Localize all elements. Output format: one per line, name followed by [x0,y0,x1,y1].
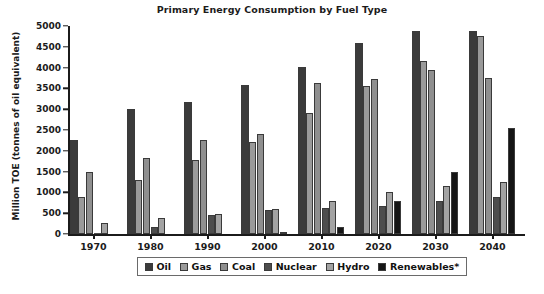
y-axis-tick-mark [63,150,68,151]
bar-coal-2020[interactable] [371,79,378,234]
x-axis-tick-mark [207,234,208,239]
legend-swatch-icon [378,263,386,271]
bar-group-1980: 1980 [127,26,173,234]
bar-nuclear-2040[interactable] [493,197,500,234]
bar-renewables-2040[interactable] [508,128,515,234]
bar-nuclear-2030[interactable] [436,201,443,234]
legend-label: Coal [232,261,255,272]
bar-oil-1980[interactable] [127,109,134,234]
legend-label: Renewables* [390,261,459,272]
legend-item-gas[interactable]: Gas [180,261,211,272]
bar-coal-2000[interactable] [257,134,264,234]
bar-hydro-2040[interactable] [500,182,507,234]
legend-swatch-icon [264,263,272,271]
x-axis-tick-mark [492,234,493,239]
bar-hydro-1990[interactable] [215,214,222,234]
bar-nuclear-2020[interactable] [379,206,386,234]
x-axis-tick-label-2030: 2030 [422,241,448,252]
bar-group-2040: 2040 [469,26,515,234]
bar-group-bars [241,26,287,234]
bar-renewables-2010[interactable] [337,227,344,234]
y-axis-tick-mark [63,67,68,68]
legend-item-coal[interactable]: Coal [220,261,255,272]
bar-renewables-2030[interactable] [451,172,458,234]
chart-legend: OilGasCoalNuclearHydroRenewables* [137,257,467,276]
y-axis-tick-mark [63,108,68,109]
bar-group-2030: 2030 [412,26,458,234]
legend-swatch-icon [326,263,334,271]
bar-hydro-2030[interactable] [443,186,450,234]
bar-group-2020: 2020 [355,26,401,234]
x-axis-tick-label-2020: 2020 [365,241,391,252]
bar-gas-2040[interactable] [477,36,484,234]
x-axis-tick-label-1990: 1990 [194,241,220,252]
x-axis-tick-label-2000: 2000 [251,241,277,252]
bar-renewables-2020[interactable] [394,201,401,234]
bar-nuclear-2010[interactable] [322,208,329,234]
bar-coal-1980[interactable] [143,158,150,234]
bar-group-2010: 2010 [298,26,344,234]
bar-hydro-2010[interactable] [329,201,336,234]
x-axis-tick-mark [150,234,151,239]
y-axis-tick-mark [63,46,68,47]
bar-oil-2040[interactable] [469,31,476,234]
bar-group-bars [355,26,401,234]
bar-gas-2010[interactable] [306,113,313,234]
bar-coal-1970[interactable] [86,172,93,234]
x-axis-tick-label-1970: 1970 [80,241,106,252]
bar-nuclear-1990[interactable] [208,215,215,234]
bar-coal-2040[interactable] [485,78,492,234]
y-axis-tick-mark [63,233,68,234]
bar-gas-2000[interactable] [249,142,256,234]
bar-hydro-1980[interactable] [158,218,165,234]
bar-gas-1990[interactable] [192,160,199,234]
bar-hydro-1970[interactable] [101,223,108,234]
legend-label: Oil [157,261,172,272]
bar-renewables-2000[interactable] [280,232,287,234]
bar-nuclear-1980[interactable] [151,227,158,234]
x-axis-tick-mark [321,234,322,239]
bar-oil-2020[interactable] [355,43,362,234]
legend-swatch-icon [220,263,228,271]
y-axis-tick-mark [63,25,68,26]
bar-nuclear-2000[interactable] [265,210,272,234]
bar-oil-1990[interactable] [184,102,191,234]
y-axis-tick-mark [63,212,68,213]
bar-coal-2030[interactable] [428,70,435,234]
bar-oil-2030[interactable] [412,31,419,234]
legend-item-oil[interactable]: Oil [145,261,171,272]
plot-area: 0500100015002000250030003500400045005000… [68,26,524,234]
bar-gas-2020[interactable] [363,86,370,234]
bar-group-bars [469,26,515,234]
bar-group-1990: 1990 [184,26,230,234]
bar-group-bars [184,26,230,234]
y-axis-tick-mark [63,192,68,193]
bar-oil-2000[interactable] [241,85,248,234]
y-axis-label-container: Million TOE (tonnes of oil equivalent) [8,18,24,234]
bar-gas-2030[interactable] [420,61,427,234]
bar-coal-2010[interactable] [314,83,321,234]
bar-hydro-2020[interactable] [386,192,393,234]
x-axis-tick-label-1980: 1980 [137,241,163,252]
legend-item-renewables[interactable]: Renewables* [378,261,459,272]
bar-oil-1970[interactable] [70,140,77,234]
bar-coal-1990[interactable] [200,140,207,234]
x-axis-tick-mark [264,234,265,239]
bar-group-bars [127,26,173,234]
legend-item-nuclear[interactable]: Nuclear [264,261,317,272]
x-axis-tick-mark [435,234,436,239]
x-axis-tick-mark [378,234,379,239]
bar-gas-1980[interactable] [135,180,142,234]
y-axis-tick-mark [63,171,68,172]
legend-swatch-icon [145,263,153,271]
legend-swatch-icon [180,263,188,271]
legend-label: Nuclear [276,261,317,272]
bar-group-bars [70,26,116,234]
bar-group-1970: 1970 [70,26,116,234]
bar-oil-2010[interactable] [298,67,305,234]
bar-gas-1970[interactable] [78,197,85,234]
bar-group-bars [298,26,344,234]
y-axis-label: Million TOE (tonnes of oil equivalent) [11,32,21,221]
bar-hydro-2000[interactable] [272,209,279,234]
legend-item-hydro[interactable]: Hydro [326,261,370,272]
